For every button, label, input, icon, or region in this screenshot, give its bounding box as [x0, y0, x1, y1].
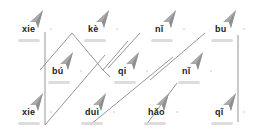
faded-character	[211, 39, 233, 42]
faded-character	[151, 39, 173, 42]
faded-character	[84, 39, 106, 42]
pinyin-label: kè	[88, 24, 98, 34]
pinyin-label: xie	[22, 107, 35, 117]
dot-marker	[50, 28, 52, 30]
dot-marker	[113, 111, 115, 113]
faded-character	[144, 122, 166, 125]
dot-marker	[183, 28, 185, 30]
dot-marker	[243, 28, 245, 30]
pinyin-label: qǐ	[215, 107, 223, 117]
dot-marker	[210, 70, 212, 72]
faded-character	[48, 81, 70, 84]
dot-marker	[176, 111, 178, 113]
faded-character	[18, 39, 40, 42]
pinyin-label: qi	[118, 66, 126, 76]
pinyin-label: duì	[85, 107, 99, 117]
pinyin-label: xie	[22, 24, 35, 34]
faded-character	[114, 81, 136, 84]
dot-marker	[116, 28, 118, 30]
dot-marker	[80, 70, 82, 72]
pinyin-label: nǐ	[182, 66, 190, 76]
dot-marker	[146, 70, 148, 72]
faded-character	[211, 122, 233, 125]
faded-character	[18, 122, 40, 125]
pinyin-label: hǎo	[148, 107, 165, 117]
pinyin-label: nǐ	[155, 24, 163, 34]
dot-marker	[50, 111, 52, 113]
pinyin-label: bú	[52, 66, 63, 76]
faded-character	[81, 122, 103, 125]
pinyin-label: bu	[215, 24, 226, 34]
faded-character	[178, 81, 200, 84]
dot-marker	[243, 111, 245, 113]
